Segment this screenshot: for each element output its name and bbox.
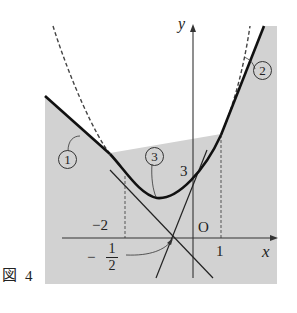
- curve-label-1: 1: [58, 150, 77, 169]
- y-axis-arrow-icon: [190, 24, 196, 32]
- fraction-denominator: 2: [106, 259, 118, 273]
- tick-x-neg2: −2: [92, 218, 108, 233]
- fraction-numerator: 1: [106, 242, 118, 256]
- origin-label: O: [198, 220, 209, 235]
- figure-caption-label: 図: [2, 268, 17, 283]
- x-axis-label: x: [262, 243, 270, 260]
- tick-neg-half-fraction: 1 2: [106, 242, 118, 273]
- tick-neg-half-sign: −: [87, 250, 95, 265]
- tick-y-3: 3: [180, 164, 188, 179]
- curve-label-3: 3: [145, 147, 164, 166]
- curve-label-2: 2: [253, 61, 272, 80]
- tick-x-1: 1: [216, 244, 224, 259]
- figure-caption-number: 4: [25, 269, 33, 284]
- y-axis-label: y: [178, 16, 185, 32]
- figure-4: y x O −2 1 3 − 1 2 1 2 3 図 4: [0, 0, 297, 313]
